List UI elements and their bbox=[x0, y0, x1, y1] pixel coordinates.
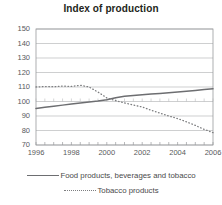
y-tick-label: 140 bbox=[4, 40, 30, 48]
plot-canvas bbox=[0, 27, 222, 159]
y-tick-label: 80 bbox=[4, 127, 30, 135]
x-tick-label: 2000 bbox=[92, 148, 122, 157]
legend-swatch-dotted-line bbox=[63, 186, 97, 196]
legend-label-tobacco-products: Tobacco products bbox=[97, 186, 158, 196]
legend-swatch-solid-line bbox=[26, 171, 60, 181]
index-of-production-chart: Index of production 15014013012011010090… bbox=[0, 0, 222, 205]
x-tick-label: 2006 bbox=[198, 148, 222, 157]
x-tick-label: 2002 bbox=[127, 148, 157, 157]
chart-title: Index of production bbox=[0, 3, 222, 14]
y-tick-label: 90 bbox=[4, 112, 30, 120]
x-tick-label: 1996 bbox=[21, 148, 51, 157]
x-tick-label: 1998 bbox=[56, 148, 86, 157]
legend-label-food-products: Food products, beverages and tobacco bbox=[60, 171, 195, 181]
y-tick-label: 130 bbox=[4, 54, 30, 62]
chart-legend: Food products, beverages and tobacco Tob… bbox=[0, 168, 222, 198]
y-tick-label: 110 bbox=[4, 83, 30, 91]
y-tick-label: 150 bbox=[4, 25, 30, 33]
plot-area: 150140130120110100908070 199619982000200… bbox=[0, 27, 222, 159]
legend-item-food-products: Food products, beverages and tobacco bbox=[0, 168, 222, 183]
legend-item-tobacco-products: Tobacco products bbox=[0, 183, 222, 198]
y-tick-label: 120 bbox=[4, 69, 30, 77]
y-tick-label: 100 bbox=[4, 98, 30, 106]
x-tick-label: 2004 bbox=[163, 148, 193, 157]
series-line-1 bbox=[36, 85, 213, 132]
